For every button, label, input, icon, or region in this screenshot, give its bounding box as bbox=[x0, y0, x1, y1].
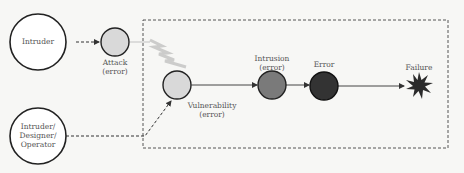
error-label: Error bbox=[304, 60, 344, 69]
edge-operator-vulnerability bbox=[66, 101, 171, 136]
diagram-canvas bbox=[0, 0, 464, 173]
vulnerability-node bbox=[163, 71, 191, 99]
intruder-label: Intruder bbox=[10, 37, 66, 46]
attack-label: Attack (error) bbox=[95, 58, 135, 76]
intrusion-label: Intrusion (error) bbox=[252, 54, 292, 72]
failure-label: Failure bbox=[399, 63, 439, 72]
attack-node bbox=[101, 28, 129, 56]
intruder-designer-operator-label: Intruder/ Designer/ Operator bbox=[10, 122, 66, 149]
error-node bbox=[310, 72, 338, 100]
vulnerability-label: Vulnerability (error) bbox=[172, 101, 252, 119]
failure-star-icon bbox=[406, 72, 433, 99]
intrusion-node bbox=[258, 71, 286, 99]
lightning-icon bbox=[130, 40, 186, 67]
